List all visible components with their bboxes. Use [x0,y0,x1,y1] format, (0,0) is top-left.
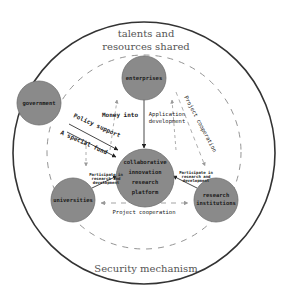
diagram-canvas: talents and resources shared Security me… [0,0,288,302]
label-application: Application [149,111,185,118]
svg-text:government: government [22,100,55,107]
node-platform: collaborative innovation research platfo… [116,149,174,207]
label-project-cooperation-diag: Project cooperation [182,95,218,154]
svg-text:platform: platform [132,189,159,196]
label-money-into: Money into [102,111,139,119]
label-participate-right-3: development [183,178,210,183]
node-government: government [17,81,61,125]
label-special-fund: A special fund [59,129,109,157]
label-resources: resources shared [102,41,190,52]
label-security-mechanism: Security mechanism [94,263,198,274]
svg-text:enterprises: enterprises [126,75,162,82]
label-development: development [149,118,185,125]
svg-text:innovation: innovation [128,169,161,175]
svg-text:research: research [132,179,159,185]
svg-text:research: research [203,192,230,198]
node-enterprises: enterprises [122,56,166,100]
dashed-arrow-application [172,100,176,150]
label-project-cooperation-bottom: Project cooperation [113,209,176,216]
label-participate-left-3: development [93,180,120,185]
node-research-institutions: research institutions [194,178,238,222]
svg-text:collaborative: collaborative [123,159,167,165]
svg-text:universities: universities [53,197,93,203]
node-universities: universities [51,178,95,222]
svg-text:institutions: institutions [196,200,236,206]
label-talents: talents and [118,28,175,39]
dashed-arrow-money [110,100,117,150]
